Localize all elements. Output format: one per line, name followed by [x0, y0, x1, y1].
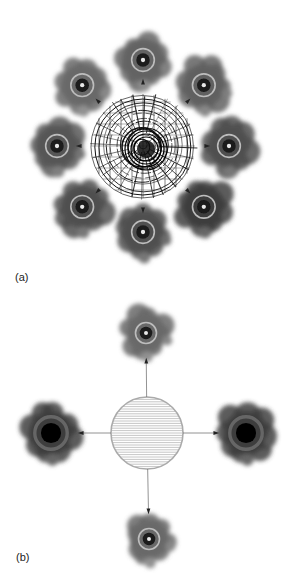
- diffraction-blob-top: [119, 303, 174, 362]
- panel-a-diagram: [0, 0, 286, 290]
- hatched-circle: [111, 397, 183, 469]
- panel-b-diagram: [0, 290, 286, 577]
- diffraction-blob-bottom: [127, 513, 177, 568]
- diffraction-blob-right: [216, 402, 277, 466]
- diffraction-blob-top-left: [54, 58, 111, 117]
- diffraction-blob-right: [201, 116, 260, 179]
- arrow-line-bottom: [148, 469, 149, 511]
- diffraction-blob-bottom: [116, 203, 172, 263]
- panel-b-label: (b): [16, 551, 29, 563]
- diffraction-blob-bottom-left: [54, 179, 116, 238]
- panel-a-label: (a): [15, 271, 28, 283]
- panel-a: (a): [0, 0, 286, 290]
- diffraction-blob-top-right: [176, 55, 232, 117]
- panel-b: (b): [0, 290, 286, 577]
- polar-grid-circle: [90, 94, 197, 200]
- diffraction-blob-left: [19, 402, 83, 466]
- diffraction-blob-bottom-right: [174, 181, 234, 239]
- diffraction-blob-left: [30, 117, 85, 178]
